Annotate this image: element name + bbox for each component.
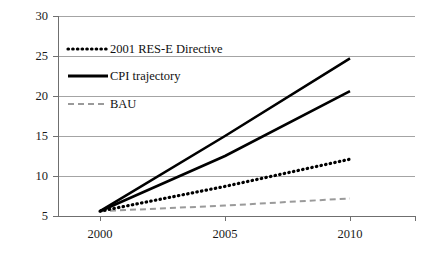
legend-label-cpi-trajectory: CPI trajectory	[110, 69, 180, 84]
y-tick-label-5: 5	[22, 209, 48, 224]
y-tick-label-15: 15	[22, 129, 48, 144]
series-line-cpi-trajectory-lower	[100, 91, 350, 211]
series-line-res-e-directive	[100, 159, 350, 211]
plot-area	[0, 0, 434, 261]
y-tick-label-20: 20	[22, 89, 48, 104]
legend-label-bau: BAU	[110, 97, 136, 112]
x-axis-ticks	[100, 216, 415, 221]
y-tick-label-30: 30	[22, 9, 48, 24]
line-chart: 30 25 20 15 10 5 2000 2005 2010 2001 RES…	[0, 0, 434, 261]
y-axis-ticks	[53, 16, 58, 216]
gridlines	[58, 16, 415, 176]
x-tick-label-2005: 2005	[195, 227, 255, 242]
y-tick-label-25: 25	[22, 49, 48, 64]
y-tick-label-10: 10	[22, 169, 48, 184]
x-tick-label-2010: 2010	[320, 227, 380, 242]
legend-label-res-e-directive: 2001 RES-E Directive	[110, 42, 222, 57]
x-tick-label-2000: 2000	[70, 227, 130, 242]
